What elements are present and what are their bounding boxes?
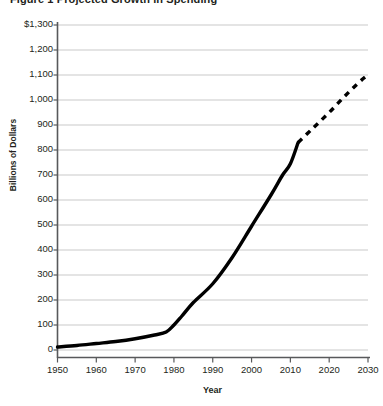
gridlines bbox=[58, 25, 369, 350]
plot-area bbox=[0, 0, 383, 406]
chart-container: Figure 1 Projected Growth in Spending Bi… bbox=[0, 0, 383, 406]
axis-ticks bbox=[54, 25, 369, 363]
data-line-projected bbox=[298, 75, 368, 143]
data-line-actual bbox=[58, 143, 299, 348]
x-axis-title: Year bbox=[57, 385, 368, 395]
